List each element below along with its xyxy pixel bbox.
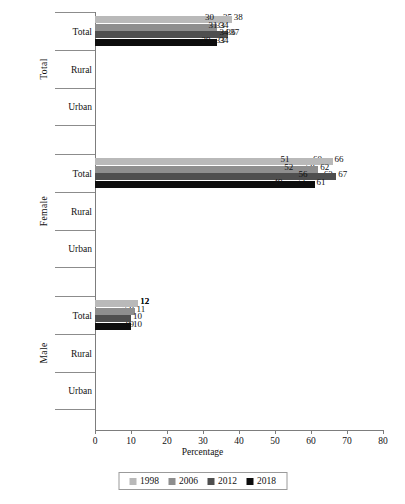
x-axis-line: 01020304050607080 xyxy=(95,430,383,431)
category-label: Urban xyxy=(68,386,95,396)
legend-swatch-icon xyxy=(246,478,253,485)
x-axis-tick xyxy=(239,430,240,434)
bar-value-label: 37 xyxy=(230,28,239,37)
plot-area: TotalTotalRuralUrbanFemaleTotalRuralUrba… xyxy=(0,0,405,440)
x-axis-tick xyxy=(95,430,96,434)
category-label: Total xyxy=(73,169,95,179)
panel-male: MaleTotalRuralUrban xyxy=(55,296,95,410)
legend-label: 2012 xyxy=(218,476,237,486)
legend-swatch-icon xyxy=(129,478,136,485)
x-axis-tick-label: 60 xyxy=(306,436,316,446)
category-row: Urban xyxy=(55,372,95,410)
category-row: Urban xyxy=(55,230,95,268)
bar-value-label: 10 xyxy=(133,320,142,329)
bar-2018 xyxy=(95,181,271,188)
bar-value-label: 38 xyxy=(234,13,243,22)
bar-value-label: 31 xyxy=(209,21,218,30)
bar-2006 xyxy=(95,166,282,173)
x-axis-title: Percentage xyxy=(0,447,405,457)
bar-value-label: 67 xyxy=(338,170,347,179)
bar-2018 xyxy=(95,323,131,330)
legend-item-2018: 2018 xyxy=(246,476,276,486)
bar-value-label: 62 xyxy=(320,163,329,172)
bar-2012 xyxy=(95,31,217,38)
bar-value-label: 29 xyxy=(201,36,210,45)
category-row: Rural xyxy=(55,334,95,372)
bar-2006 xyxy=(95,24,207,31)
category-label: Rural xyxy=(71,207,95,217)
bar-value-label: 34 xyxy=(219,28,228,37)
grouped-bar-chart: TotalTotalRuralUrbanFemaleTotalRuralUrba… xyxy=(0,0,405,504)
bar-1998 xyxy=(95,300,138,307)
bar-value-label: 49 xyxy=(273,178,282,187)
category-row: Rural xyxy=(55,50,95,88)
legend-label: 2018 xyxy=(257,476,276,486)
bar-1998 xyxy=(95,158,279,165)
x-axis-tick-label: 50 xyxy=(270,436,280,446)
bar-1998 xyxy=(95,16,203,23)
panel-total: TotalTotalRuralUrban xyxy=(55,12,95,126)
legend-label: 1998 xyxy=(140,476,159,486)
x-axis-tick-label: 20 xyxy=(162,436,172,446)
x-axis-tick xyxy=(167,430,168,434)
bar-2018 xyxy=(95,39,199,46)
category-label: Rural xyxy=(71,65,95,75)
bar-value-label: 66 xyxy=(335,155,344,164)
legend-label: 2006 xyxy=(179,476,198,486)
bar-value-label: 61 xyxy=(317,178,326,187)
category-label: Total xyxy=(73,27,95,37)
x-axis-tick-label: 70 xyxy=(342,436,352,446)
x-axis-tick xyxy=(131,430,132,434)
legend-item-2012: 2012 xyxy=(207,476,237,486)
x-axis-tick xyxy=(275,430,276,434)
bar-2012 xyxy=(95,315,131,322)
bar-value-label: 52 xyxy=(284,163,293,172)
legend-swatch-icon xyxy=(168,478,175,485)
x-axis-tick xyxy=(383,430,384,434)
x-axis-tick xyxy=(311,430,312,434)
x-axis-tick-label: 0 xyxy=(93,436,98,446)
panel-female: FemaleTotalRuralUrban xyxy=(55,154,95,268)
x-axis-tick-label: 40 xyxy=(234,436,244,446)
panel-label-text: Total xyxy=(39,58,49,79)
x-axis-tick xyxy=(203,430,204,434)
category-row: Total xyxy=(55,12,95,50)
category-row: Total xyxy=(55,154,95,192)
bar-2012 xyxy=(95,173,297,180)
x-axis-tick-label: 10 xyxy=(126,436,136,446)
panel-label-text: Male xyxy=(39,342,49,363)
category-label: Rural xyxy=(71,349,95,359)
category-axis: TotalTotalRuralUrbanFemaleTotalRuralUrba… xyxy=(55,12,95,430)
bar-value-label: 56 xyxy=(299,170,308,179)
legend: 1998200620122018 xyxy=(118,472,287,490)
category-row: Rural xyxy=(55,192,95,230)
bar-2006 xyxy=(95,308,135,315)
legend-item-2006: 2006 xyxy=(168,476,198,486)
legend-swatch-icon xyxy=(207,478,214,485)
x-axis-tick-label: 30 xyxy=(198,436,208,446)
x-axis-tick xyxy=(347,430,348,434)
panel-label-text: Female xyxy=(39,196,49,226)
category-label: Total xyxy=(73,311,95,321)
bars-layer: 3533363338343734303134296058635666626761… xyxy=(95,12,405,430)
category-row: Urban xyxy=(55,88,95,126)
category-label: Urban xyxy=(68,102,95,112)
category-row: Total xyxy=(55,296,95,334)
x-axis-tick-label: 80 xyxy=(378,436,388,446)
category-label: Urban xyxy=(68,244,95,254)
legend-item-1998: 1998 xyxy=(129,476,159,486)
